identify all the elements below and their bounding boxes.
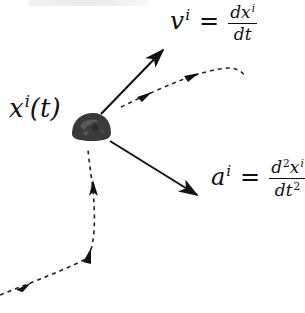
velocity-symbol: v bbox=[170, 6, 184, 35]
denominator-symbol: dt bbox=[275, 180, 293, 200]
acceleration-symbol: a bbox=[211, 163, 225, 191]
diagram-canvas bbox=[0, 0, 305, 313]
acceleration-index: i bbox=[226, 162, 231, 180]
velocity-label: vi=dxidt bbox=[170, 3, 257, 43]
acceleration-numerator: d2xi bbox=[269, 158, 305, 179]
particle-icon bbox=[72, 113, 111, 141]
position-argument: (t) bbox=[30, 93, 61, 123]
velocity-denominator: dt bbox=[234, 24, 252, 43]
numerator-symbol: x bbox=[241, 2, 251, 22]
past-path bbox=[0, 150, 94, 295]
velocity-fraction: dxidt bbox=[228, 3, 257, 43]
past-path-arrow-2 bbox=[83, 248, 91, 264]
numerator-index: i bbox=[300, 157, 303, 169]
velocity-index: i bbox=[185, 6, 190, 24]
trajectory-diagram: xi(t) vi=dxidt ai=d2xidt2 bbox=[0, 0, 305, 313]
order-exponent: 2 bbox=[283, 157, 290, 169]
velocity-vector-arrow bbox=[101, 50, 163, 114]
future-path-arrow-2 bbox=[184, 73, 199, 82]
denominator-exponent: 2 bbox=[293, 180, 300, 192]
future-path-arrow-1 bbox=[137, 92, 152, 102]
velocity-numerator: dxi bbox=[228, 3, 257, 24]
equals-sign: = bbox=[199, 7, 219, 35]
position-symbol: x bbox=[9, 93, 24, 123]
numerator-symbol: x bbox=[290, 157, 300, 177]
acceleration-denominator: dt2 bbox=[275, 179, 300, 199]
position-label: xi(t) bbox=[9, 94, 61, 121]
acceleration-vector-arrow bbox=[110, 141, 197, 195]
numerator-index: i bbox=[252, 2, 255, 14]
equals-sign: = bbox=[240, 163, 260, 191]
acceleration-fraction: d2xidt2 bbox=[269, 158, 305, 199]
differential-d: d bbox=[230, 2, 241, 22]
acceleration-label: ai=d2xidt2 bbox=[211, 158, 305, 199]
differential-d: d bbox=[271, 157, 282, 177]
